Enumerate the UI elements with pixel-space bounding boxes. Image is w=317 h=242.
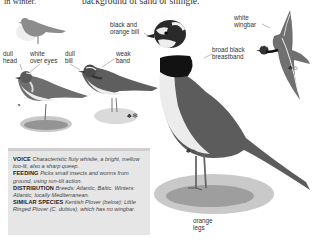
- juvenile-symbol: ◔: [16, 102, 21, 110]
- winter-symbol: ♣❄: [127, 112, 138, 119]
- species-info-box: VOICE Characteristic fluty whistle, a br…: [8, 148, 150, 235]
- adult-symbol: ♣☼: [186, 147, 197, 154]
- info-distribution: DISTRIBUTION Breeds: Atlantic, Baltic. W…: [13, 185, 145, 199]
- adult-bird-illustration: [146, 16, 317, 222]
- info-feeding: FEEDING Picks small insects and worms fr…: [13, 170, 145, 184]
- info-similar-species: SIMILAR SPECIES Kentish Plover (below); …: [13, 199, 145, 213]
- info-voice: VOICE Characteristic fluty whistle, a br…: [13, 156, 145, 170]
